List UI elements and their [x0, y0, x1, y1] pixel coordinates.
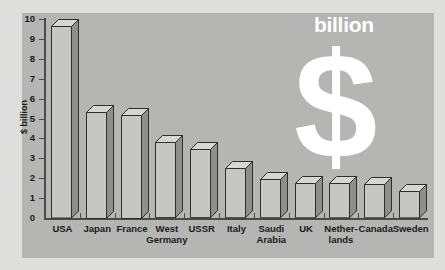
- category-separator: [184, 213, 185, 218]
- bar-chart: billion $ $ billion 012345678910 USAJapa…: [0, 0, 445, 270]
- bar-italy: [225, 161, 254, 220]
- category-separator: [149, 213, 150, 218]
- category-separator: [115, 213, 116, 218]
- bar-japan: [86, 105, 115, 220]
- bar-saudi-arabia: [260, 172, 289, 220]
- category-separator: [324, 213, 325, 218]
- bar-west-germany: [155, 135, 184, 220]
- bar-france: [121, 108, 150, 220]
- bar-canada: [364, 177, 393, 220]
- bar-usa: [51, 19, 80, 220]
- bar-netherlands: [329, 176, 358, 220]
- category-separator: [289, 213, 290, 218]
- category-separator: [358, 213, 359, 218]
- category-separator: [80, 213, 81, 218]
- bar-uk: [295, 176, 324, 220]
- bar-sweden: [399, 184, 428, 220]
- x-label-sweden: Sweden: [388, 223, 433, 234]
- bar-ussr: [190, 142, 219, 220]
- category-separator: [393, 213, 394, 218]
- category-separator: [254, 213, 255, 218]
- category-separator: [219, 213, 220, 218]
